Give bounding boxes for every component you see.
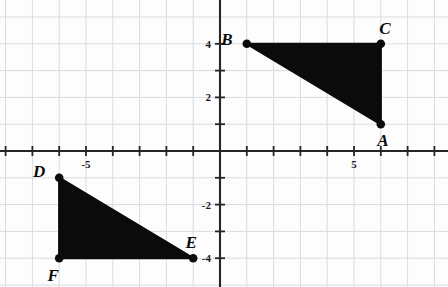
- point-label-a: A: [376, 131, 388, 150]
- point-label-b: B: [220, 30, 232, 49]
- vertex-point-c: [377, 40, 386, 49]
- point-label-d: D: [32, 162, 45, 181]
- point-label-f: F: [47, 266, 60, 285]
- graph-canvas: -5542-2-4 ABCDEF: [0, 0, 448, 287]
- x-tick-label: -5: [81, 158, 91, 170]
- point-label-c: C: [379, 19, 391, 38]
- y-tick-label: 2: [206, 91, 212, 103]
- vertex-point-a: [377, 120, 386, 129]
- y-tick-label: 4: [206, 38, 212, 50]
- y-tick-label: -4: [202, 252, 212, 264]
- coordinate-plane-figure: -5542-2-4 ABCDEF: [0, 0, 448, 287]
- point-label-e: E: [185, 233, 197, 252]
- vertex-point-e: [189, 254, 198, 263]
- vertex-point-b: [243, 40, 252, 49]
- y-tick-label: -2: [202, 199, 212, 211]
- vertex-point-f: [55, 254, 64, 263]
- vertex-point-d: [55, 174, 64, 183]
- x-tick-label: 5: [351, 158, 357, 170]
